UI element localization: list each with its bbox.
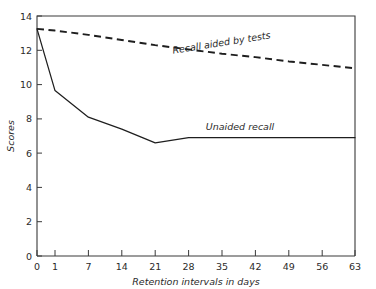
x-tick-label-42: 42 [249,261,261,272]
x-tick-label-7: 7 [85,261,91,272]
chart-figure: 0 2 4 6 8 10 12 14 0 1 7 [0,0,376,289]
y-tick-label-0: 0 [26,251,32,262]
x-tick-label-56: 56 [316,261,328,272]
line-chart-canvas: 0 2 4 6 8 10 12 14 0 1 7 [0,0,376,289]
x-tick-label-14: 14 [116,261,128,272]
series-label-unaided-recall: Unaided recall [206,121,275,132]
x-tick-label-0: 0 [34,261,40,272]
x-tick-label-35: 35 [216,261,228,272]
x-tick-label-1: 1 [52,261,58,272]
x-axis-title: Retention intervals in days [132,276,260,287]
series-label-recall-aided-by-tests: Recall aided by tests [172,29,272,55]
x-tick-label-63: 63 [349,261,361,272]
y-axis-ticks [37,16,42,256]
y-axis-title: Scores [5,120,16,152]
x-tick-label-28: 28 [183,261,195,272]
y-tick-label-14: 14 [20,11,32,22]
y-tick-label-10: 10 [20,79,32,90]
y-axis-tick-labels: 0 2 4 6 8 10 12 14 [20,11,32,262]
x-axis-ticks [37,250,355,256]
y-tick-label-8: 8 [26,113,32,124]
y-tick-label-12: 12 [20,45,32,56]
x-tick-label-49: 49 [283,261,295,272]
x-tick-label-21: 21 [149,261,161,272]
x-axis-tick-labels: 0 1 7 14 21 28 35 42 49 56 63 [34,261,361,272]
y-tick-label-2: 2 [26,216,32,227]
y-tick-label-6: 6 [26,148,32,159]
y-tick-label-4: 4 [26,182,32,193]
